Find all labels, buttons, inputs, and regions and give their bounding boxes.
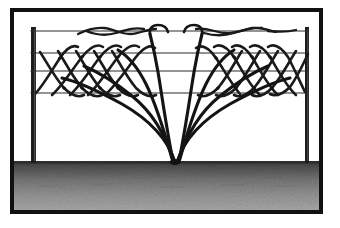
left-post-highlight bbox=[34, 29, 35, 161]
plant-crown bbox=[170, 159, 181, 165]
right-post-highlight bbox=[307, 29, 308, 161]
illustration-figure: Line illustration: a climbing plant rise… bbox=[0, 0, 340, 228]
ground-soil bbox=[14, 161, 319, 210]
fence-vine-illustration bbox=[0, 0, 340, 228]
right-post bbox=[305, 27, 309, 163]
ground-line bbox=[14, 161, 319, 164]
